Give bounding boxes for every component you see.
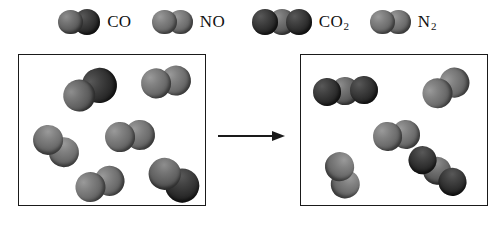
atom-sphere (286, 9, 312, 35)
legend-icon-n2 (370, 10, 411, 35)
legend-entry-co2: CO2 (252, 6, 349, 38)
legend-icon-co2 (252, 9, 312, 35)
legend-entry-n2: N2 (370, 6, 436, 38)
molecule-no (72, 162, 129, 206)
reactant-box (18, 54, 206, 206)
legend-icon-co (58, 9, 100, 35)
legend-label-co2: CO2 (319, 12, 349, 32)
atom-sphere (252, 9, 278, 35)
legend-label-subscript-n2: 2 (431, 20, 437, 32)
legend-label-subscript-co2: 2 (343, 20, 349, 32)
legend-icon-no (152, 10, 193, 35)
atom-sphere (58, 10, 83, 35)
molecule-n2 (322, 148, 364, 202)
reaction-arrow (218, 130, 286, 142)
reaction-diagram: CONOCO2N2 (0, 0, 496, 238)
molecule-co2 (403, 141, 472, 202)
atom-sphere (152, 10, 177, 35)
molecule-no (27, 119, 85, 173)
legend-entry-co: CO (58, 6, 131, 38)
molecule-no (104, 118, 157, 153)
arrow-shaft (218, 135, 276, 137)
legend-label-co: CO (107, 12, 131, 32)
legend-label-no: NO (200, 12, 225, 32)
product-box (300, 54, 488, 206)
legend-entry-no: NO (152, 6, 225, 38)
molecule-n2 (417, 62, 475, 114)
arrow-head-icon (272, 131, 285, 141)
legend: CONOCO2N2 (0, 6, 496, 42)
legend-label-n2: N2 (418, 12, 436, 32)
molecule-co2 (312, 75, 378, 106)
atom-sphere (349, 75, 378, 104)
atom-sphere (370, 10, 395, 35)
molecule-no (139, 64, 192, 101)
molecule-co (57, 62, 122, 119)
molecule-co (142, 151, 206, 209)
